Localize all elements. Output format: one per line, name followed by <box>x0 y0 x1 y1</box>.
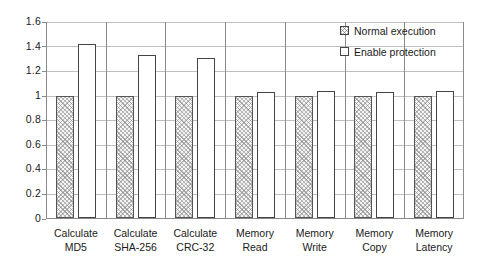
gridline-0.8 <box>46 120 464 121</box>
y-tick-label-1: 1 <box>5 90 41 101</box>
y-tick-label-0.4: 0.4 <box>5 163 41 174</box>
chart-legend: Normal execution Enable protection <box>340 20 472 62</box>
bar-enable-protection <box>376 92 394 218</box>
bar-chart: 1.6 1.4 1.2 1 0.8 0.6 0.4 0.2 0 Calculat… <box>0 0 477 270</box>
empty-square-icon <box>340 47 349 56</box>
gridline-1.2 <box>46 71 464 72</box>
y-tick-label-1.6: 1.6 <box>5 16 41 27</box>
x-axis-category-label: MemoryLatency <box>404 226 464 254</box>
bar-enable-protection <box>317 91 335 218</box>
category-separator <box>225 22 226 218</box>
y-axis-labels: 1.6 1.4 1.2 1 0.8 0.6 0.4 0.2 0 <box>0 0 41 270</box>
gridline-1 <box>46 96 464 97</box>
bar-enable-protection <box>78 44 96 218</box>
y-tick-mark <box>42 219 46 220</box>
bar-enable-protection <box>197 58 215 218</box>
bar-enable-protection <box>138 55 156 218</box>
gridline-0.2 <box>46 194 464 195</box>
bar-normal-execution <box>235 96 253 219</box>
bar-enable-protection <box>436 91 454 218</box>
x-axis-category-label: CalculateCRC-32 <box>165 226 225 254</box>
y-tick-label-1.2: 1.2 <box>5 65 41 76</box>
legend-item-normal-execution: Normal execution <box>340 20 472 41</box>
hatched-square-icon <box>340 26 349 35</box>
x-axis-category-label: CalculateMD5 <box>46 226 106 254</box>
bar-normal-execution <box>56 96 74 219</box>
x-axis-category-label: MemoryWrite <box>285 226 345 254</box>
gridline-0.6 <box>46 145 464 146</box>
bar-enable-protection <box>257 92 275 218</box>
category-separator <box>46 22 47 218</box>
category-separator <box>106 22 107 218</box>
x-axis-category-label: MemoryRead <box>225 226 285 254</box>
x-axis-category-label: CalculateSHA-256 <box>106 226 166 254</box>
y-tick-label-0.6: 0.6 <box>5 139 41 150</box>
bar-normal-execution <box>175 96 193 219</box>
gridline-0.4 <box>46 169 464 170</box>
bar-normal-execution <box>295 96 313 219</box>
legend-item-enable-protection: Enable protection <box>340 41 472 62</box>
category-separator <box>165 22 166 218</box>
x-axis-category-label: MemoryCopy <box>345 226 405 254</box>
legend-label-normal-execution: Normal execution <box>354 25 436 37</box>
category-separator <box>285 22 286 218</box>
bar-normal-execution <box>354 96 372 219</box>
x-axis-line <box>46 218 464 219</box>
y-tick-label-1.4: 1.4 <box>5 41 41 52</box>
y-tick-label-0.2: 0.2 <box>5 188 41 199</box>
bar-normal-execution <box>414 96 432 219</box>
bar-normal-execution <box>116 96 134 219</box>
y-tick-label-0: 0 <box>5 213 41 224</box>
x-axis-labels: CalculateMD5CalculateSHA-256CalculateCRC… <box>46 226 464 270</box>
legend-label-enable-protection: Enable protection <box>354 46 436 58</box>
y-tick-label-0.8: 0.8 <box>5 114 41 125</box>
